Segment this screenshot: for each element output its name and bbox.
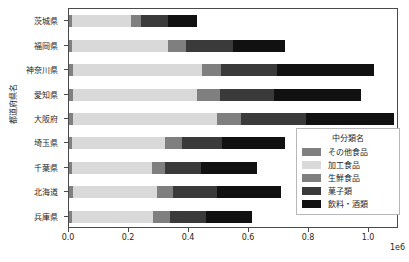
chart-figure: 都道府県名 茨城県福岡県神奈川県愛知県大阪府埼玉県千葉県北海道兵庫県 0.00.…: [0, 0, 409, 262]
bar-segment-2-3: [221, 64, 277, 76]
legend-item-1[interactable]: 加工食品: [302, 158, 394, 171]
y-tick-label-8: 兵庫県: [0, 210, 58, 221]
x-tick-mark-3: [248, 228, 249, 232]
x-tick-mark-2: [188, 228, 189, 232]
bar-segment-1-2: [168, 40, 186, 52]
legend: 中分類名 その他食品加工食品生鮮食品菓子類飲料・酒類: [296, 128, 400, 215]
legend-label-3: 菓子類: [328, 185, 352, 196]
y-axis-tick-labels: 茨城県福岡県神奈川県愛知県大阪府埼玉県千葉県北海道兵庫県: [0, 8, 64, 228]
bar-segment-2-2: [202, 64, 222, 76]
bar-segment-4-3: [241, 113, 306, 125]
y-tick-label-0: 茨城県: [0, 15, 58, 26]
bar-segment-5-1: [72, 137, 165, 149]
bar-segment-3-2: [197, 89, 220, 101]
bar-segment-5-3: [182, 137, 223, 149]
y-tick-label-2: 神奈川県: [0, 64, 58, 75]
y-tick-label-7: 北海道: [0, 186, 58, 197]
legend-swatch-1: [302, 161, 321, 169]
x-tick-label-5: 1.0: [362, 233, 375, 242]
bar-segment-0-1: [72, 15, 131, 27]
x-tick-label-2: 0.4: [182, 233, 195, 242]
bar-segment-1-1: [72, 40, 168, 52]
x-tick-mark-0: [68, 228, 69, 232]
legend-rows: その他食品加工食品生鮮食品菓子類飲料・酒類: [302, 145, 394, 210]
legend-label-1: 加工食品: [328, 159, 360, 170]
legend-title: 中分類名: [302, 132, 394, 143]
x-tick-label-0: 0.0: [62, 233, 75, 242]
legend-item-2[interactable]: 生鮮食品: [302, 171, 394, 184]
x-tick-mark-4: [308, 228, 309, 232]
x-axis-tick-labels: 0.00.20.40.60.81.0: [68, 228, 398, 258]
bar-segment-4-1: [73, 113, 217, 125]
bar-segment-7-2: [157, 186, 174, 198]
bar-segment-0-2: [131, 15, 142, 27]
bar-segment-2-1: [73, 64, 202, 76]
bar-segment-6-3: [165, 162, 201, 174]
legend-item-3[interactable]: 菓子類: [302, 184, 394, 197]
y-tick-label-3: 愛知県: [0, 88, 58, 99]
y-tick-label-5: 埼玉県: [0, 137, 58, 148]
bar-segment-1-3: [186, 40, 233, 52]
bar-segment-7-4: [217, 186, 282, 198]
bar-segment-8-3: [170, 211, 206, 223]
bar-segment-2-4: [277, 64, 375, 76]
legend-swatch-4: [302, 200, 321, 208]
x-tick-mark-5: [368, 228, 369, 232]
legend-item-0[interactable]: その他食品: [302, 145, 394, 158]
legend-swatch-0: [302, 148, 321, 156]
bar-segment-7-3: [173, 186, 217, 198]
y-tick-label-4: 大阪府: [0, 113, 58, 124]
x-axis-offset-text: 1e6: [390, 243, 405, 252]
bar-segment-8-4: [206, 211, 253, 223]
bar-segment-0-4: [168, 15, 197, 27]
bar-segment-1-4: [233, 40, 286, 52]
x-tick-label-1: 0.2: [122, 233, 135, 242]
bar-segment-3-4: [274, 89, 361, 101]
y-tick-label-6: 千葉県: [0, 161, 58, 172]
bar-segment-5-4: [222, 137, 285, 149]
y-tick-label-1: 福岡県: [0, 39, 58, 50]
bar-segment-5-2: [165, 137, 182, 149]
bar-segment-0-3: [141, 15, 168, 27]
bar-segment-4-4: [306, 113, 395, 125]
x-tick-label-3: 0.6: [242, 233, 255, 242]
bar-segment-6-2: [152, 162, 166, 174]
legend-swatch-3: [302, 187, 321, 195]
bar-segment-4-2: [217, 113, 241, 125]
bar-segment-8-2: [153, 211, 170, 223]
bar-segment-6-1: [72, 162, 152, 174]
legend-label-0: その他食品: [328, 146, 368, 157]
bar-segment-7-1: [73, 186, 157, 198]
x-tick-mark-1: [128, 228, 129, 232]
bar-segment-6-4: [201, 162, 257, 174]
bar-segment-8-1: [72, 211, 153, 223]
legend-item-4[interactable]: 飲料・酒類: [302, 197, 394, 210]
legend-swatch-2: [302, 174, 321, 182]
x-tick-label-4: 0.8: [302, 233, 315, 242]
bar-segment-3-1: [73, 89, 198, 101]
legend-label-4: 飲料・酒類: [328, 198, 368, 209]
legend-label-2: 生鮮食品: [328, 172, 360, 183]
bar-segment-3-3: [220, 89, 274, 101]
